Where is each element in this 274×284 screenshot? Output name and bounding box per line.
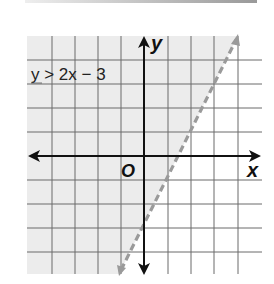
origin-label: O bbox=[121, 161, 135, 181]
y-axis-label: y bbox=[150, 32, 163, 54]
boundary-arrow-bottom-icon bbox=[117, 265, 126, 276]
x-axis-label: x bbox=[246, 159, 259, 181]
inequality-label: y > 2x − 3 bbox=[31, 65, 106, 84]
coordinate-graph: y > 2x − 3 y x O bbox=[0, 0, 274, 284]
